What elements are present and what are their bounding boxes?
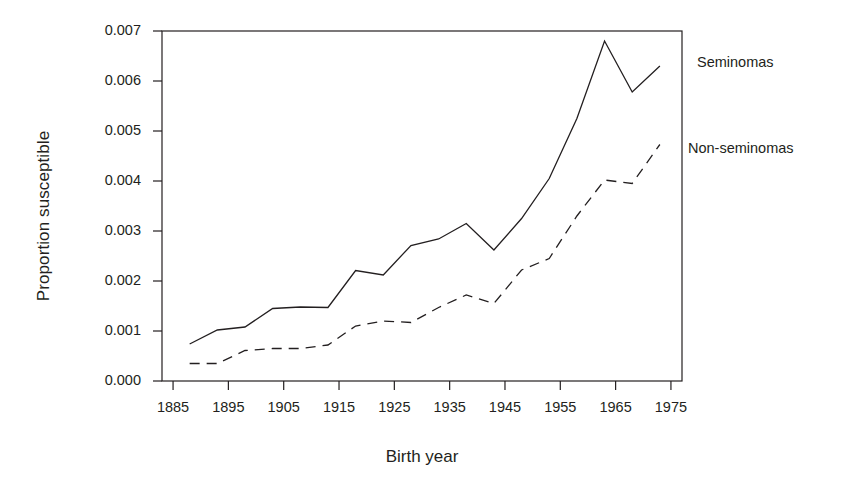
x-axis-ticks — [173, 381, 671, 390]
chart-figure: Proportion susceptible Birth year 0.0000… — [0, 0, 842, 494]
y-tick-label: 0.006 — [71, 72, 141, 88]
y-tick-label: 0.002 — [71, 272, 141, 288]
series-label: Non-seminomas — [688, 140, 794, 156]
series-line-non-seminomas — [190, 145, 660, 364]
y-tick-label: 0.000 — [71, 372, 141, 388]
y-tick-label: 0.003 — [71, 222, 141, 238]
plot-border — [162, 31, 682, 381]
x-tick-label: 1965 — [586, 399, 646, 415]
x-tick-label: 1925 — [364, 399, 424, 415]
x-tick-label: 1915 — [309, 399, 369, 415]
x-tick-label: 1945 — [475, 399, 535, 415]
y-axis-ticks — [153, 31, 162, 381]
y-tick-label: 0.004 — [71, 172, 141, 188]
x-tick-label: 1895 — [198, 399, 258, 415]
x-tick-label: 1975 — [641, 399, 701, 415]
x-tick-label: 1955 — [530, 399, 590, 415]
y-tick-label: 0.007 — [71, 22, 141, 38]
y-tick-label: 0.001 — [71, 322, 141, 338]
y-tick-label: 0.005 — [71, 122, 141, 138]
x-tick-label: 1905 — [254, 399, 314, 415]
x-tick-label: 1935 — [420, 399, 480, 415]
x-tick-label: 1885 — [143, 399, 203, 415]
data-series-group — [190, 41, 660, 364]
series-line-seminomas — [190, 41, 660, 344]
plot-frame — [162, 31, 682, 381]
series-label: Seminomas — [697, 54, 774, 70]
